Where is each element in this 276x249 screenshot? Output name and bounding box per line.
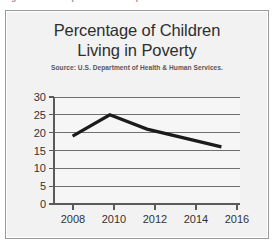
- x-tick-label-2008: 2008: [61, 213, 85, 225]
- x-tick-label-2014: 2014: [184, 213, 208, 225]
- y-tickmarks: [49, 97, 54, 204]
- figure-caption: Figure 12.2 Example of a Line Graph.: [0, 0, 276, 5]
- x-tick-label-2016: 2016: [225, 213, 249, 225]
- figure-caption-label: Figure 12.2 Example of a Line Graph.: [0, 0, 276, 3]
- chart-source-note: Source: U.S. Department of Health & Huma…: [6, 60, 268, 71]
- y-tick-label-10: 10: [34, 162, 46, 174]
- y-tick-label-20: 20: [34, 127, 46, 139]
- x-tick-label-2010: 2010: [102, 213, 126, 225]
- chart-title: Percentage of Children Living in Poverty: [6, 11, 268, 60]
- x-tick-label-2012: 2012: [143, 213, 167, 225]
- y-tick-label-15: 15: [34, 145, 46, 157]
- figure-box: Percentage of Children Living in Poverty…: [5, 10, 269, 239]
- y-tick-label-5: 5: [40, 180, 46, 192]
- chart-title-line-1: Percentage of Children: [16, 20, 258, 40]
- y-tick-label-25: 25: [34, 109, 46, 121]
- y-tick-label-30: 30: [34, 91, 46, 103]
- x-tickmarks: [73, 204, 237, 210]
- chart-title-line-2: Living in Poverty: [16, 40, 258, 60]
- line-chart-svg: 30 25 20 15 10 5 0 2008 2010 2012: [6, 89, 268, 238]
- y-tick-label-0: 0: [40, 198, 46, 210]
- x-axis-labels: 2008 2010 2012 2014 2016: [61, 213, 249, 225]
- line-chart-plot: 30 25 20 15 10 5 0 2008 2010 2012: [6, 89, 268, 238]
- y-axis-labels: 30 25 20 15 10 5 0: [34, 91, 46, 210]
